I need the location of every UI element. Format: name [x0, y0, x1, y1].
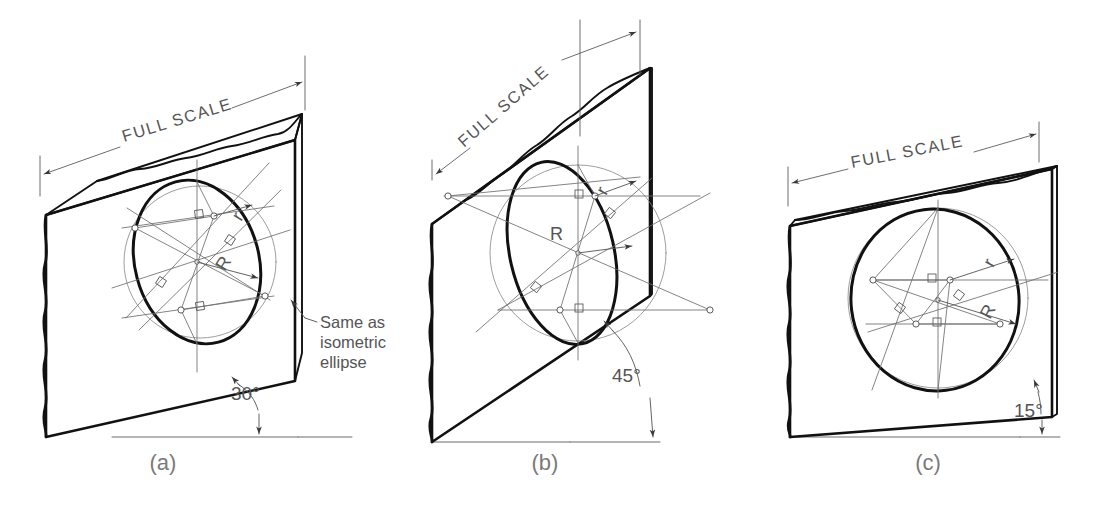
panel-a: r R FULL SCALE 30° Same as isometric ell… [40, 56, 386, 475]
dim-arrow-right-a [232, 82, 302, 108]
radius-large-label-b: R [550, 224, 563, 244]
note-line-2-a: isometric [320, 333, 386, 351]
dim-arrow-left-c [792, 169, 848, 183]
note-line-3-a: ellipse [320, 353, 367, 371]
ray-a-9 [181, 296, 265, 310]
radius-small-label-c: r [979, 255, 999, 270]
scale-label-c: FULL SCALE [849, 131, 965, 171]
center-point-a-3 [132, 225, 138, 231]
technical-drawing-figure: r R FULL SCALE 30° Same as isometric ell… [0, 0, 1100, 508]
scale-label-a: FULL SCALE [120, 94, 235, 145]
radius-large-arrow-b [578, 246, 632, 253]
caption-a: (a) [150, 450, 177, 475]
dim-arrow-right-c [974, 134, 1036, 152]
main-ellipse-b [490, 151, 633, 356]
dim-arrow-left-b [436, 148, 470, 174]
scale-label-b: FULL SCALE [454, 62, 552, 151]
figure-canvas: r R FULL SCALE 30° Same as isometric ell… [0, 0, 1100, 508]
panel-b: r R FULL SCALE 45° (b) [430, 20, 714, 475]
radius-large-label-c: R [976, 301, 1000, 322]
diagonal-ray-b-1 [476, 178, 652, 332]
angle-arrow-upper-c [1034, 380, 1039, 392]
block-top-face-c [790, 166, 1057, 226]
center-point-a-4 [262, 293, 268, 299]
center-point-a-2 [178, 307, 184, 313]
note-leader-tail-a [305, 318, 317, 322]
center-point-b-2 [557, 307, 563, 313]
center-point-c-2 [913, 321, 919, 327]
center-point-c-3 [870, 277, 876, 283]
center-point-b-3 [445, 193, 451, 199]
angle-label-b: 45° [612, 365, 641, 386]
dim-arrow-right-b [562, 32, 636, 60]
note-line-1-a: Same as [320, 313, 385, 331]
right-angle-mark-b-2 [575, 304, 583, 312]
center-point-c-4 [997, 321, 1003, 327]
right-angle-mark-c-3 [953, 289, 964, 300]
ray-c-1 [873, 208, 938, 280]
angle-label-c: 15° [1014, 400, 1043, 421]
right-angle-mark-c-1 [928, 274, 936, 282]
angle-label-a: 30° [231, 383, 260, 404]
long-axis-line-a [112, 230, 290, 288]
dim-arrow-left-a [44, 147, 120, 174]
ray-b-1 [578, 165, 595, 196]
right-angle-mark-a-4 [155, 276, 166, 287]
ray-b-3 [560, 310, 578, 343]
caption-c: (c) [915, 450, 941, 475]
caption-b: (b) [532, 450, 559, 475]
right-angle-mark-c-2 [933, 318, 941, 326]
angle-arrow-lower-b [650, 398, 653, 437]
block-right-face-c [1052, 166, 1057, 417]
panel-c: r R FULL SCALE 15° (c) [788, 122, 1060, 475]
center-point-b-4 [707, 307, 713, 313]
right-angle-mark-b-1 [575, 190, 583, 198]
ray-c-7 [938, 280, 950, 390]
